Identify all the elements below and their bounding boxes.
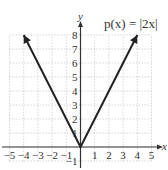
x-tick-label: 4 — [135, 149, 141, 161]
x-tick-label: 5 — [149, 149, 155, 161]
x-tick-label: 1 — [92, 149, 98, 161]
x-tick-label: −4 — [18, 149, 30, 161]
x-tick-label: −2 — [46, 149, 58, 161]
x-tick-label: −3 — [32, 149, 44, 161]
y-tick-label: 7 — [72, 43, 78, 55]
graph: −5−4−3−2−112345−112345678 p(x) = |2x| y … — [0, 0, 168, 170]
y-tick-label: 4 — [72, 85, 78, 97]
y-tick-label: 8 — [72, 29, 78, 41]
x-tick-label: 2 — [106, 149, 112, 161]
y-tick-label: 5 — [72, 71, 78, 83]
x-tick-label: −5 — [4, 149, 16, 161]
x-axis-label: x — [161, 140, 167, 152]
y-tick-label: 2 — [72, 113, 78, 125]
axes — [2, 21, 163, 168]
y-tick-label: 3 — [72, 99, 78, 111]
x-tick-label: 3 — [120, 149, 126, 161]
y-axis-label: y — [77, 10, 83, 22]
y-tick-label: 6 — [72, 57, 78, 69]
function-label: p(x) = |2x| — [104, 16, 158, 31]
y-tick-label: −1 — [66, 155, 78, 167]
